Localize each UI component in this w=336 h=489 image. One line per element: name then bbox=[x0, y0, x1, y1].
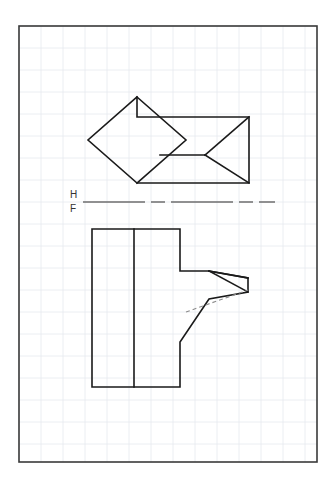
technical-drawing-canvas: H F bbox=[0, 0, 336, 489]
fold-label-f: F bbox=[70, 203, 76, 214]
sheet-background bbox=[0, 0, 336, 489]
drawing-sheet: H F bbox=[0, 0, 336, 489]
fold-label-h: H bbox=[70, 189, 77, 200]
